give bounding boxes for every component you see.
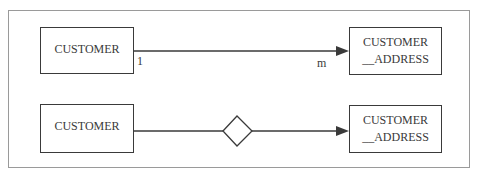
relationship-diamond-icon <box>223 116 252 146</box>
bottom-arrowhead-icon <box>336 126 349 136</box>
entity-label-line2: __ADDRESS <box>362 51 429 68</box>
entity-customer-bottom: CUSTOMER <box>40 104 134 153</box>
entity-label-line1: CUSTOMER <box>363 112 428 129</box>
entity-label: CUSTOMER <box>54 118 119 135</box>
cardinality-many: m <box>317 56 326 71</box>
entity-label: CUSTOMER <box>54 41 119 58</box>
cardinality-one: 1 <box>137 54 143 69</box>
entity-customer-address-top: CUSTOMER __ADDRESS <box>349 27 442 75</box>
entity-label-line2: __ADDRESS <box>362 129 429 146</box>
entity-customer-address-bottom: CUSTOMER __ADDRESS <box>349 105 442 153</box>
entity-customer-top: CUSTOMER <box>40 27 134 74</box>
entity-label-line1: CUSTOMER <box>363 34 428 51</box>
top-arrowhead-icon <box>336 46 349 56</box>
